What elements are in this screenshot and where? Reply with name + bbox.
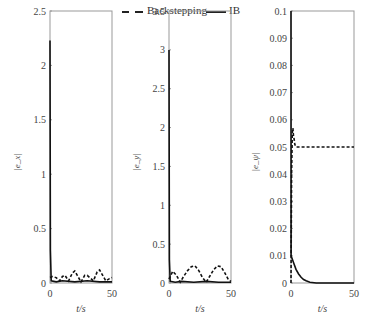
charts-area: 00.511.522.5050t/s|e_x|00.511.522.533.50… bbox=[0, 0, 367, 319]
y-tick-label: 0.01 bbox=[270, 250, 288, 261]
series-backstepping bbox=[169, 266, 231, 282]
y-tick-label: 3.5 bbox=[153, 6, 166, 17]
y-tick-label: 1 bbox=[41, 169, 46, 180]
series-ib bbox=[50, 40, 112, 282]
y-axis-label: |e_ψ| bbox=[250, 152, 260, 171]
x-axis-label: t/s bbox=[195, 303, 205, 314]
y-tick-label: 0.08 bbox=[270, 60, 288, 71]
y-tick-label: 3 bbox=[160, 44, 165, 55]
x-tick-label: 0 bbox=[48, 288, 53, 299]
x-tick-label: 50 bbox=[349, 288, 359, 299]
x-tick-label: 0 bbox=[289, 288, 294, 299]
x-axis-label: t/s bbox=[318, 303, 328, 314]
plot-frame bbox=[169, 11, 231, 283]
y-tick-label: 0 bbox=[282, 278, 287, 289]
y-axis-label: |e_y| bbox=[131, 153, 141, 170]
chart-panel-1: 00.511.522.5050t/s|e_x| bbox=[12, 6, 117, 315]
y-tick-label: 0.1 bbox=[275, 6, 288, 17]
y-tick-label: 0.07 bbox=[270, 87, 288, 98]
y-tick-label: 0.09 bbox=[270, 33, 288, 44]
x-tick-label: 50 bbox=[107, 288, 117, 299]
y-tick-label: 0.04 bbox=[270, 169, 288, 180]
y-axis-label: |e_x| bbox=[12, 153, 22, 170]
y-tick-label: 1.5 bbox=[34, 114, 47, 125]
y-tick-label: 1 bbox=[160, 200, 165, 211]
y-tick-label: 0 bbox=[41, 278, 46, 289]
series-backstepping bbox=[50, 270, 112, 282]
x-axis-label: t/s bbox=[76, 303, 86, 314]
y-tick-label: 2 bbox=[41, 60, 46, 71]
series-ib bbox=[169, 50, 231, 282]
y-tick-label: 1.5 bbox=[153, 161, 166, 172]
x-tick-label: 50 bbox=[226, 288, 236, 299]
y-tick-label: 0 bbox=[160, 278, 165, 289]
y-tick-label: 0.5 bbox=[34, 223, 47, 234]
y-tick-label: 0.5 bbox=[153, 239, 166, 250]
y-tick-label: 0.06 bbox=[270, 114, 288, 125]
y-tick-label: 2 bbox=[160, 122, 165, 133]
y-tick-label: 2.5 bbox=[153, 83, 166, 94]
series-backstepping bbox=[291, 128, 354, 283]
y-tick-label: 2.5 bbox=[34, 6, 47, 17]
y-tick-label: 0.02 bbox=[270, 223, 288, 234]
y-tick-label: 0.05 bbox=[270, 142, 288, 153]
chart-panel-2: 00.511.522.533.5050t/s|e_y| bbox=[131, 6, 236, 315]
chart-panel-3: 00.010.020.030.040.050.060.070.080.090.1… bbox=[250, 6, 359, 315]
x-tick-label: 0 bbox=[167, 288, 172, 299]
plot-frame bbox=[50, 11, 112, 283]
y-tick-label: 0.03 bbox=[270, 196, 288, 207]
